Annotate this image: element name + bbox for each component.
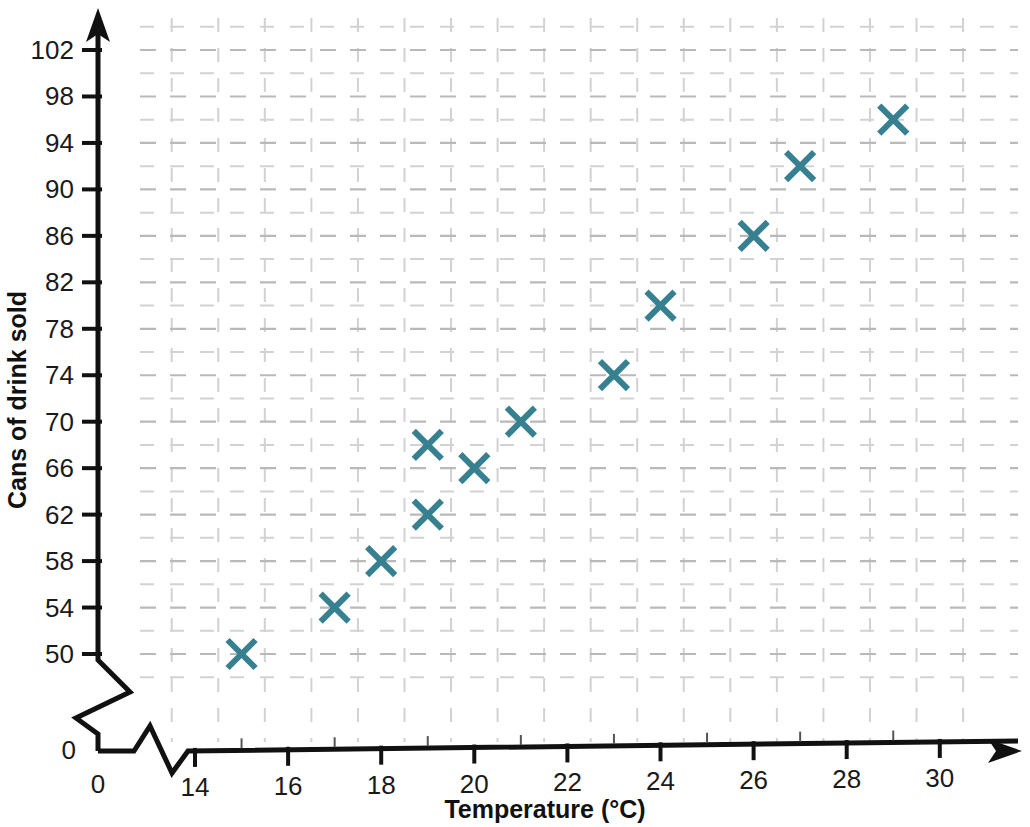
y-tick-label: 94 — [45, 128, 74, 158]
x-tick-label: 28 — [832, 764, 861, 794]
x-tick-label: 16 — [274, 771, 303, 801]
x-tick-label: 30 — [925, 763, 954, 793]
y-tick-label: 58 — [45, 546, 74, 576]
chart-canvas: 50545862667074788286909498102 1416182022… — [0, 0, 1030, 827]
y-tick-label: 78 — [45, 314, 74, 344]
x-tick-label: 26 — [739, 765, 768, 795]
y-axis-title: Cans of drink sold — [3, 291, 31, 509]
y-tick-label: 86 — [45, 221, 74, 251]
y-tick-label: 82 — [45, 267, 74, 297]
y-axis-origin-label: 0 — [62, 735, 76, 765]
x-tick-label: 22 — [553, 767, 582, 797]
x-tick-label: 18 — [367, 770, 396, 800]
y-tick-label: 102 — [31, 35, 74, 65]
y-tick-label: 90 — [45, 174, 74, 204]
x-axis-title: Temperature (°C) — [444, 795, 645, 823]
y-axis-tick-labels: 50545862667074788286909498102 — [31, 35, 74, 669]
y-tick-label: 54 — [45, 593, 74, 623]
x-axis-origin-label: 0 — [91, 769, 105, 799]
x-tick-label: 14 — [181, 772, 210, 802]
x-tick-label: 24 — [646, 766, 675, 796]
y-tick-label: 66 — [45, 453, 74, 483]
y-tick-label: 70 — [45, 407, 74, 437]
y-tick-label: 74 — [45, 360, 74, 390]
scatter-chart: 50545862667074788286909498102 1416182022… — [0, 0, 1030, 827]
y-tick-label: 50 — [45, 639, 74, 669]
y-tick-label: 62 — [45, 500, 74, 530]
y-tick-label: 98 — [45, 81, 74, 111]
